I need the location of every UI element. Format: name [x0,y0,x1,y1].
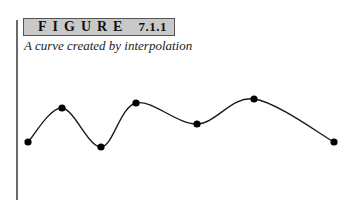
data-point [132,99,139,106]
data-point [193,120,200,127]
data-point [58,104,65,111]
data-point [330,138,337,145]
data-points [24,95,337,150]
data-point [24,138,31,145]
data-point [250,95,257,102]
interpolation-diagram [0,0,354,208]
interpolated-curve [28,99,334,147]
data-point [97,143,104,150]
